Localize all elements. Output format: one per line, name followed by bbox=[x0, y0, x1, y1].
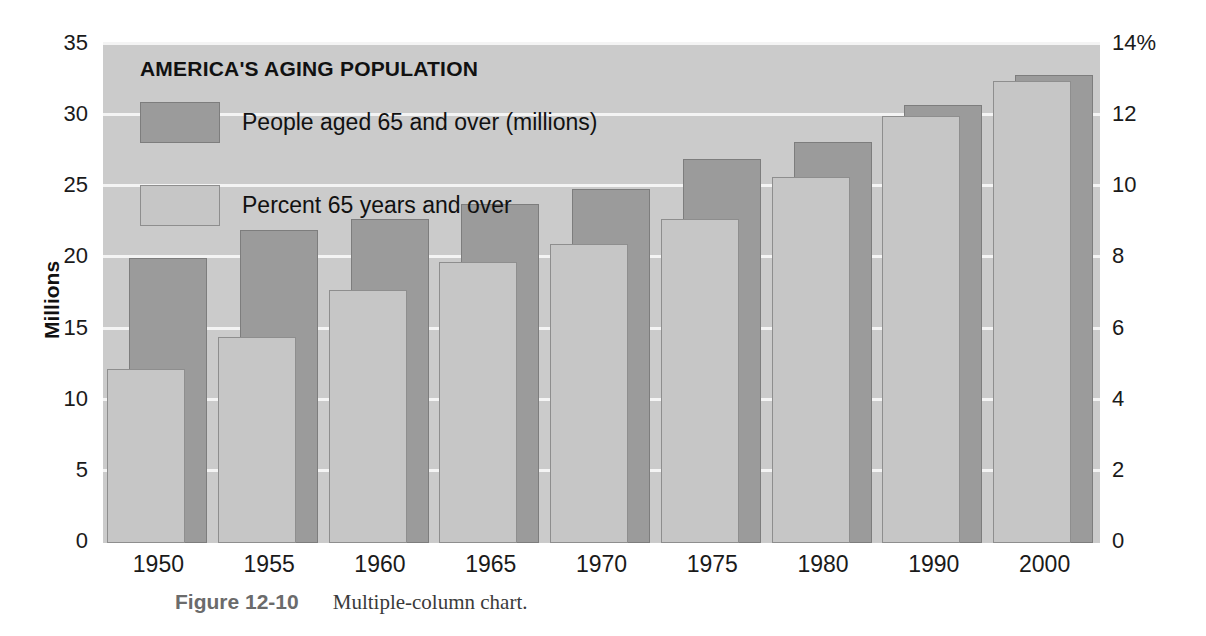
x-axis-tick-1970: 1970 bbox=[546, 551, 657, 578]
y-axis-right-tick-10: 10 bbox=[1112, 174, 1136, 196]
y-axis-right-tick-0: 0 bbox=[1112, 530, 1124, 552]
plot-area: AMERICA'S AGING POPULATION People aged 6… bbox=[103, 45, 1100, 543]
legend-label-1: Percent 65 years and over bbox=[242, 192, 512, 219]
bar-percent-2000 bbox=[993, 81, 1071, 543]
y-axis-left-tick-10: 10 bbox=[40, 388, 88, 410]
y-axis-left-tick-5: 5 bbox=[40, 459, 88, 481]
y-axis-right-tick-6: 6 bbox=[1112, 317, 1124, 339]
y-axis-title: Millions bbox=[40, 240, 64, 360]
caption-label: Figure 12-10 bbox=[175, 590, 299, 613]
bar-percent-1950 bbox=[107, 369, 185, 543]
x-axis-tick-2000: 2000 bbox=[989, 551, 1100, 578]
x-axis-tick-1950: 1950 bbox=[103, 551, 214, 578]
legend-item-people-65-and-over: People aged 65 and over (millions) bbox=[140, 102, 597, 143]
figure-container: AMERICA'S AGING POPULATION People aged 6… bbox=[0, 0, 1206, 636]
legend-swatch-light bbox=[140, 185, 220, 226]
x-axis-ticks: 195019551960196519701975198019902000 bbox=[103, 551, 1100, 585]
caption-text: Multiple-column chart. bbox=[333, 590, 528, 614]
y-axis-right-tick-4: 4 bbox=[1112, 388, 1124, 410]
y-axis-right-tick-2: 2 bbox=[1112, 459, 1124, 481]
bar-percent-1980 bbox=[772, 177, 850, 543]
x-axis-tick-1980: 1980 bbox=[768, 551, 879, 578]
bar-percent-1965 bbox=[439, 262, 517, 543]
y-axis-left-tick-0: 0 bbox=[40, 530, 88, 552]
figure-caption: Figure 12-10Multiple-column chart. bbox=[0, 590, 1206, 615]
bar-percent-1960 bbox=[329, 290, 407, 543]
y-axis-right-tick-8: 8 bbox=[1112, 245, 1124, 267]
legend-label-0: People aged 65 and over (millions) bbox=[242, 109, 597, 136]
x-axis-tick-1990: 1990 bbox=[878, 551, 989, 578]
chart-title: AMERICA'S AGING POPULATION bbox=[140, 57, 478, 81]
bar-percent-1970 bbox=[550, 244, 628, 543]
bar-percent-1955 bbox=[218, 337, 296, 543]
x-axis-tick-1965: 1965 bbox=[435, 551, 546, 578]
y-axis-right-tick-12: 12 bbox=[1112, 103, 1136, 125]
gridline bbox=[103, 42, 1100, 45]
y-axis-right: 02468101214% bbox=[1112, 0, 1182, 636]
x-axis-tick-1955: 1955 bbox=[214, 551, 325, 578]
bar-percent-1990 bbox=[882, 116, 960, 543]
bar-percent-1975 bbox=[661, 219, 739, 543]
legend-item-percent-65-and-over: Percent 65 years and over bbox=[140, 185, 512, 226]
x-axis-tick-1960: 1960 bbox=[325, 551, 436, 578]
y-axis-left-tick-25: 25 bbox=[40, 174, 88, 196]
legend-swatch-dark bbox=[140, 102, 220, 143]
y-axis-left-tick-35: 35 bbox=[40, 32, 88, 54]
x-axis-tick-1975: 1975 bbox=[657, 551, 768, 578]
y-axis-right-tick-14pct: 14% bbox=[1112, 32, 1156, 54]
y-axis-left-tick-30: 30 bbox=[40, 103, 88, 125]
